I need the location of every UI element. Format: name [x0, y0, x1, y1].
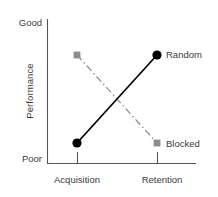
- marker-random-retention: [152, 50, 161, 59]
- chart-figure: Good Poor Performance Acquisition Retent…: [0, 0, 218, 197]
- x-tick-label-acquisition: Acquisition: [54, 174, 100, 185]
- marker-random-acquisition: [72, 138, 81, 147]
- x-tick-label-retention: Retention: [142, 174, 183, 185]
- performance-line-chart: Good Poor Performance Acquisition Retent…: [0, 0, 218, 197]
- series-label-blocked: Blocked: [166, 138, 200, 149]
- y-axis-bottom-label: Poor: [22, 153, 42, 164]
- marker-blocked-retention: [154, 140, 161, 147]
- marker-blocked-acquisition: [74, 52, 81, 59]
- y-axis-title: Performance: [24, 63, 35, 118]
- series-label-random: Random: [166, 49, 202, 60]
- y-axis-top-label: Good: [19, 17, 42, 28]
